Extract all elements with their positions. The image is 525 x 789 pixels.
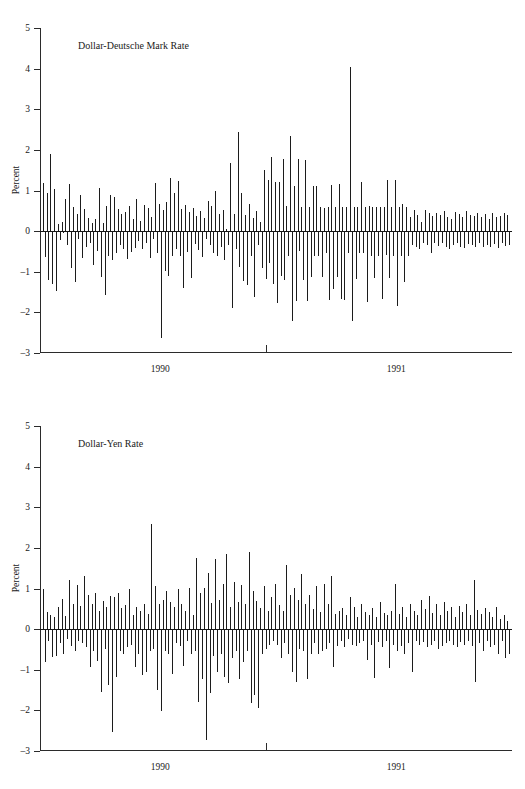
data-spike (457, 231, 458, 243)
panel-title: Dollar-Yen Rate (78, 438, 143, 449)
data-spike (200, 211, 201, 231)
data-spike (479, 231, 480, 243)
data-spike (258, 629, 259, 708)
data-spike (286, 565, 287, 629)
data-spike (243, 629, 244, 662)
data-spike (382, 629, 383, 647)
data-spike (221, 231, 222, 246)
data-spike (296, 629, 297, 682)
data-spike (505, 629, 506, 658)
data-spike (328, 207, 329, 231)
data-spike (283, 159, 284, 231)
data-spike (56, 231, 57, 291)
data-spike (103, 223, 104, 231)
data-spike (431, 629, 432, 644)
data-spike (440, 615, 441, 629)
data-spike (309, 595, 310, 630)
data-spike (429, 596, 430, 629)
data-spike (108, 629, 109, 685)
y-tick-label: 4 (25, 64, 30, 74)
data-spike (196, 558, 197, 629)
data-spike (357, 617, 358, 629)
data-spike (241, 585, 242, 629)
data-spike (303, 231, 304, 280)
data-spike (211, 603, 212, 629)
data-spike (417, 615, 418, 629)
data-spike (90, 629, 91, 666)
data-spike (256, 601, 257, 629)
figure-root: Percent 543210–1–2–3 Dollar-Deutsche Mar… (0, 0, 525, 789)
data-spike (449, 629, 450, 640)
data-spike (496, 607, 497, 629)
chart-panel-dollar-deutsche-mark: Percent 543210–1–2–3 Dollar-Deutsche Mar… (0, 0, 525, 395)
data-spike (63, 629, 64, 653)
data-spike (114, 197, 115, 232)
data-spike (200, 593, 201, 630)
data-spike (459, 214, 460, 231)
data-spike (80, 606, 81, 630)
data-spike (436, 213, 437, 231)
data-spike (181, 604, 182, 629)
data-spike (436, 604, 437, 629)
data-spike (404, 231, 405, 282)
data-spike (93, 231, 94, 265)
data-spike (492, 617, 493, 629)
data-spike (112, 629, 113, 731)
data-spike (260, 222, 261, 231)
data-spike (88, 595, 89, 630)
data-spike (226, 229, 227, 231)
data-spike (198, 629, 199, 702)
data-spike (105, 629, 106, 649)
data-spike (52, 629, 53, 657)
panel-title: Dollar-Deutsche Mark Rate (78, 40, 189, 51)
data-spike (90, 231, 91, 242)
data-spike (45, 629, 46, 662)
data-spike (206, 629, 207, 740)
data-spike (60, 231, 61, 240)
data-spike (260, 608, 261, 629)
data-spike (108, 231, 109, 256)
plot-area (40, 426, 512, 751)
data-spike (253, 591, 254, 630)
data-spike (378, 629, 379, 642)
data-spike (376, 617, 377, 629)
data-spike (163, 210, 164, 231)
data-spike (239, 629, 240, 679)
data-spike (54, 617, 55, 629)
data-spike (275, 182, 276, 231)
data-spike (110, 195, 111, 231)
data-spike (165, 629, 166, 651)
data-spike (161, 231, 162, 337)
data-spike (423, 629, 424, 642)
x-tick-label: 1991 (387, 762, 406, 772)
data-spike (331, 576, 332, 629)
data-spike (335, 207, 336, 231)
data-spike (180, 629, 181, 646)
data-spike (365, 207, 366, 231)
data-spike (127, 629, 128, 647)
data-spike (151, 524, 152, 630)
data-spike (472, 629, 473, 646)
data-spike (69, 184, 70, 232)
data-spike (333, 629, 334, 666)
data-spike (434, 231, 435, 242)
data-spike (202, 231, 203, 257)
y-tick-label: 3 (25, 104, 30, 114)
data-spike (500, 216, 501, 231)
data-spike (273, 629, 274, 640)
data-spike (224, 629, 225, 677)
data-spike (307, 231, 308, 301)
data-spike (78, 629, 79, 641)
data-spike (292, 629, 293, 672)
data-spike (234, 214, 235, 231)
data-spike (492, 213, 493, 231)
data-spike (318, 629, 319, 654)
data-spike (509, 231, 510, 245)
data-spike (189, 212, 190, 231)
data-spike (318, 231, 319, 255)
y-tick-mark (34, 353, 40, 354)
data-spike (296, 231, 297, 301)
data-spike (350, 597, 351, 629)
data-spike (208, 201, 209, 231)
data-spike (277, 629, 278, 644)
